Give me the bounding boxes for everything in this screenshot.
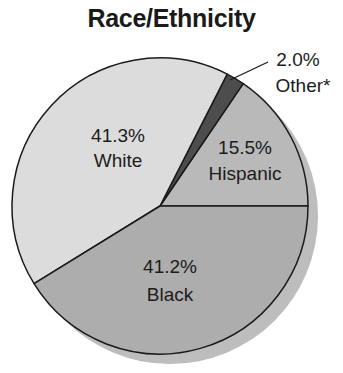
white-pct-label: 41.3% bbox=[91, 125, 145, 146]
hispanic-label: Hispanic bbox=[209, 163, 282, 184]
black-label: Black bbox=[147, 284, 194, 305]
other-pct-label: 2.0% bbox=[276, 49, 319, 70]
black-pct-label: 41.2% bbox=[143, 256, 197, 277]
pie-slices bbox=[12, 58, 308, 354]
other-label: Other* bbox=[276, 75, 332, 96]
hispanic-pct-label: 15.5% bbox=[218, 137, 272, 158]
pie-chart: 41.3% White 15.5% Hispanic 41.2% Black 2… bbox=[0, 0, 343, 373]
white-label: White bbox=[94, 150, 143, 171]
other-leader-line bbox=[230, 62, 268, 80]
